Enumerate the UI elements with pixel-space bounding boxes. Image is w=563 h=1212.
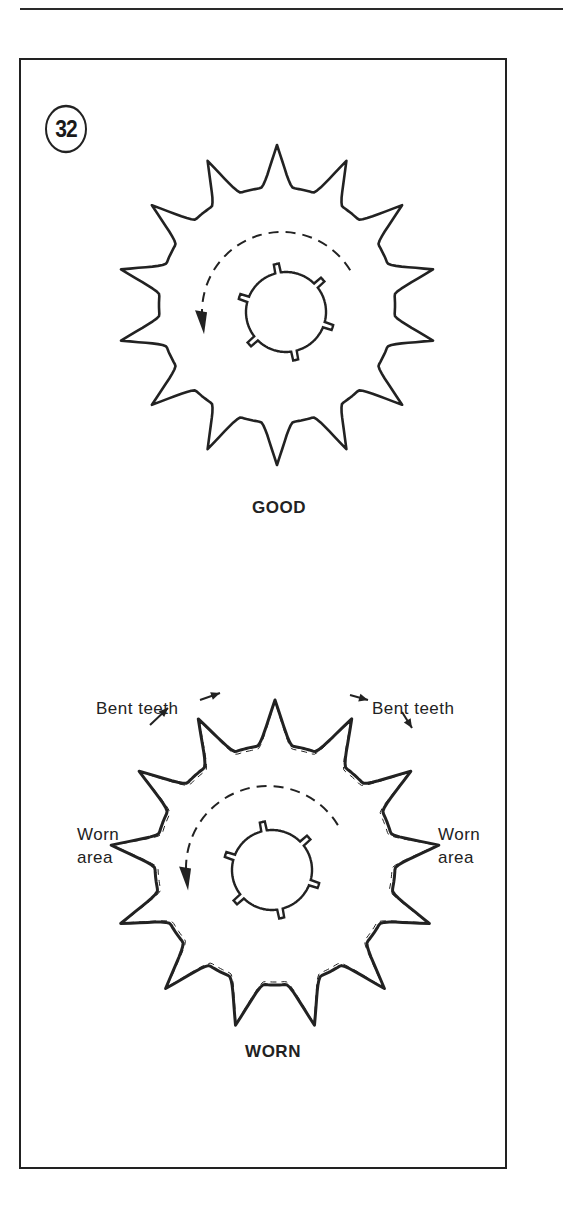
bent-teeth-label-right: Bent teeth (372, 699, 455, 719)
worn-caption: WORN (245, 1042, 301, 1062)
worn-area-label-left-line2: area (77, 848, 113, 868)
worn-area-label-left-line1: Worn (77, 825, 119, 845)
worn-area-label-right-line1: Worn (438, 825, 480, 845)
good-sprocket-drawing (121, 145, 433, 465)
worn-sprocket-drawing (111, 692, 439, 1025)
sprocket-diagram (0, 0, 563, 1212)
bent-teeth-label-left: Bent teeth (96, 699, 179, 719)
good-caption: GOOD (252, 498, 306, 518)
worn-area-label-right-line2: area (438, 848, 474, 868)
